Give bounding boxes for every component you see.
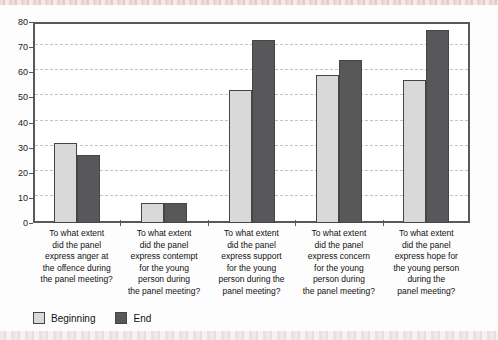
bar-beginning-1	[141, 203, 164, 223]
y-axis-tick	[29, 223, 33, 224]
y-axis-tick	[29, 148, 33, 149]
y-axis-tick	[29, 22, 33, 23]
x-axis-tick	[295, 220, 296, 226]
y-axis-label: 0	[0, 218, 28, 228]
bar-beginning-4	[403, 80, 426, 223]
legend: BeginningEnd	[33, 312, 163, 324]
y-axis-label: 60	[0, 67, 28, 77]
chart: BeginningEnd 01020304050607080To what ex…	[0, 0, 498, 340]
y-axis-tick	[29, 72, 33, 73]
bar-beginning-0	[54, 143, 77, 223]
y-axis-label: 50	[0, 92, 28, 102]
y-axis-label: 40	[0, 118, 28, 128]
x-axis-tick	[383, 220, 384, 226]
y-axis-label: 10	[0, 193, 28, 203]
legend-label-beginning: Beginning	[51, 313, 95, 324]
y-axis-tick	[29, 97, 33, 98]
bar-beginning-2	[229, 90, 252, 223]
category-label-0: To what extent did the panel express ang…	[33, 228, 120, 286]
y-axis-tick	[29, 198, 33, 199]
legend-swatch-beginning	[33, 312, 45, 324]
y-axis-label: 70	[0, 42, 28, 52]
y-axis-tick	[29, 123, 33, 124]
y-axis-tick	[29, 173, 33, 174]
y-axis-label: 20	[0, 168, 28, 178]
category-label-2: To what extent did the panel express sup…	[208, 228, 295, 297]
x-axis-tick	[208, 220, 209, 226]
decorative-bottom-band	[0, 331, 498, 340]
bar-end-1	[164, 203, 187, 223]
bar-end-0	[77, 155, 100, 223]
bar-end-3	[339, 60, 362, 223]
y-axis-label: 80	[0, 17, 28, 27]
x-axis-tick	[120, 220, 121, 226]
legend-item-beginning: Beginning	[33, 312, 95, 324]
decorative-top-band	[0, 0, 498, 5]
legend-swatch-end	[115, 312, 127, 324]
category-label-1: To what extent did the panel express con…	[120, 228, 207, 297]
bar-end-2	[252, 40, 275, 223]
category-label-4: To what extent did the panel express hop…	[383, 228, 470, 297]
category-label-3: To what extent did the panel express con…	[295, 228, 382, 297]
legend-label-end: End	[133, 313, 151, 324]
bar-end-4	[426, 30, 449, 223]
legend-item-end: End	[115, 312, 151, 324]
bar-beginning-3	[316, 75, 339, 223]
y-axis-tick	[29, 47, 33, 48]
y-axis-label: 30	[0, 143, 28, 153]
